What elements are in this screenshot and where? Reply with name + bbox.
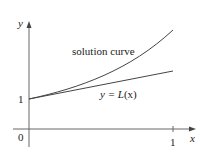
tangent-label-arg: (x) <box>124 88 137 101</box>
tangent-label-fn: L <box>117 88 124 100</box>
solution-curve-label: solution curve <box>72 45 135 57</box>
y-axis-arrow-icon <box>27 21 32 28</box>
tangent-line-label: y = L(x) <box>99 88 137 101</box>
diagram-canvas: y 1 0 1 x solution curve y = L(x) <box>0 0 206 157</box>
origin-label: 0 <box>18 131 24 143</box>
x-tick-label-1: 1 <box>170 136 176 148</box>
tangent-label-prefix: y = <box>99 88 118 100</box>
x-axis-arrow-icon <box>189 127 196 132</box>
x-axis-label: x <box>189 132 195 144</box>
y-axis-label: y <box>17 17 23 29</box>
y-tick-label-1: 1 <box>18 93 24 105</box>
